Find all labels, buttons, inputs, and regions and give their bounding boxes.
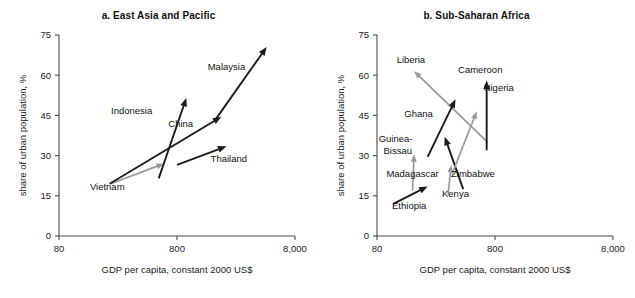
figure-root: a. East Asia and Pacific 015304560758080… — [0, 0, 635, 298]
arrow-shaft-china — [110, 120, 215, 183]
x-tick-label: 800 — [487, 243, 503, 254]
series-label-malaysia: Malaysia — [208, 61, 246, 72]
arrow-head-madagascar — [444, 137, 450, 146]
x-tick-label: 80 — [372, 243, 383, 254]
series-label-china: China — [168, 118, 194, 129]
series-label-bissau: Bissau — [384, 145, 413, 156]
x-axis-title: GDP per capita, constant 2000 US$ — [420, 264, 572, 275]
arrow-head-indonesia — [180, 98, 186, 107]
y-tick-label: 30 — [40, 150, 51, 161]
series-label-cameroon: Cameroon — [458, 64, 502, 75]
series-label-guinea-: Guinea- — [379, 133, 413, 144]
panel-b-plot: 01530456075808008,000GDP per capita, con… — [318, 0, 635, 298]
panel-a-plot: 01530456075808008,000GDP per capita, con… — [0, 0, 317, 298]
series-label-kenya: Kenya — [442, 188, 470, 199]
x-tick-label: 80 — [54, 243, 65, 254]
arrow-head-malaysia — [259, 47, 267, 56]
x-tick-label: 8,000 — [601, 243, 625, 254]
y-tick-label: 60 — [40, 70, 51, 81]
y-tick-label: 75 — [40, 29, 51, 40]
x-tick-label: 800 — [169, 243, 185, 254]
arrow-head-thailand — [217, 146, 226, 152]
series-label-vietnam: Vietnam — [90, 181, 125, 192]
x-axis-title: GDP per capita, constant 2000 US$ — [102, 264, 254, 275]
x-tick-label: 8,000 — [283, 243, 307, 254]
chart-panel-east-asia-pacific: a. East Asia and Pacific 015304560758080… — [0, 0, 317, 298]
series-label-ethiopia: Ethiopia — [392, 200, 427, 211]
series-label-liberia: Liberia — [397, 54, 426, 65]
series-label-nigeria: Nigeria — [484, 82, 515, 93]
arrow-head-zimbabwe — [471, 111, 477, 119]
y-tick-label: 0 — [46, 230, 51, 241]
y-tick-label: 0 — [364, 230, 369, 241]
y-tick-label: 15 — [40, 190, 51, 201]
y-tick-label: 60 — [358, 70, 369, 81]
series-label-thailand: Thailand — [211, 153, 247, 164]
arrow-shaft-zimbabwe — [452, 117, 474, 174]
series-label-zimbabwe: Zimbabwe — [451, 168, 495, 179]
series-label-indonesia: Indonesia — [111, 105, 153, 116]
y-axis-title: share of urban population, % — [335, 74, 346, 196]
y-tick-label: 45 — [358, 110, 369, 121]
y-axis-title: share of urban population, % — [17, 74, 28, 196]
y-tick-label: 30 — [358, 150, 369, 161]
chart-panel-sub-saharan-africa: b. Sub-Saharan Africa 01530456075808008,… — [318, 0, 635, 298]
y-tick-label: 45 — [40, 110, 51, 121]
arrow-head-ethiopia — [419, 186, 428, 193]
y-tick-label: 75 — [358, 29, 369, 40]
series-label-ghana: Ghana — [404, 108, 433, 119]
arrow-head-ghana — [449, 99, 456, 108]
series-label-madagascar: Madagascar — [386, 168, 438, 179]
axis-lines — [59, 35, 295, 236]
y-tick-label: 15 — [358, 190, 369, 201]
